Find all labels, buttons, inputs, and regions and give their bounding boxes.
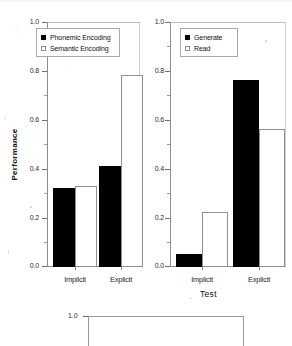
bar-right-implicit-read <box>202 212 228 267</box>
y-tick-major <box>42 22 47 23</box>
y-tick-major <box>42 218 47 219</box>
y-tick-minor <box>167 242 170 243</box>
x-tick <box>75 266 76 270</box>
bar-left-implicit-semantic <box>75 186 97 267</box>
y-tick-major <box>165 169 170 170</box>
y-tick-label: 0.2 <box>12 214 39 221</box>
legend-swatch-filled-icon <box>41 35 46 40</box>
y-tick-major <box>83 316 88 317</box>
x-tick <box>121 266 122 270</box>
y-tick-minor <box>167 144 170 145</box>
y-tick-minor <box>167 46 170 47</box>
legend-item-semantic: Semantic Encoding <box>41 43 114 54</box>
y-tick-major <box>42 266 47 267</box>
y-tick-major <box>165 266 170 267</box>
legend-label: Phonemic Encoding <box>50 34 111 41</box>
y-tick-major <box>165 218 170 219</box>
x-axis-label: Test <box>200 289 217 299</box>
plot-area-bottom-partial <box>88 316 244 346</box>
y-tick-minor <box>44 144 47 145</box>
y-tick-major <box>165 22 170 23</box>
chart-panel-left: 1.0 0.8 0.6 0.4 0.2 0.0 Performance Impl… <box>0 0 146 300</box>
y-tick-minor <box>167 193 170 194</box>
x-tick <box>259 266 260 270</box>
y-tick-major <box>42 71 47 72</box>
legend-swatch-open-icon <box>41 46 46 51</box>
legend-left: Phonemic Encoding Semantic Encoding <box>36 28 120 57</box>
y-axis-label: Performance <box>10 115 19 195</box>
legend-label: Generate <box>194 34 222 41</box>
x-tick-label-explicit: Explicit <box>94 275 148 284</box>
y-tick-label: 0.2 <box>137 214 164 221</box>
legend-item-phonemic: Phonemic Encoding <box>41 32 114 43</box>
legend-swatch-open-icon <box>185 46 190 51</box>
scan-artifact <box>8 250 9 253</box>
y-tick-label: 0.0 <box>137 262 164 269</box>
y-tick-major <box>165 71 170 72</box>
y-tick-label: 1.0 <box>12 18 39 25</box>
y-tick-label: 0.4 <box>137 165 164 172</box>
legend-label: Read <box>194 45 210 52</box>
y-tick-label: 0.6 <box>137 116 164 123</box>
bar-right-explicit-generate <box>233 80 259 267</box>
y-tick-minor <box>44 242 47 243</box>
y-tick-minor <box>167 95 170 96</box>
y-tick-label: 1.0 <box>137 18 164 25</box>
legend-right: Generate Read <box>180 28 238 57</box>
scan-artifact <box>4 118 6 119</box>
y-tick-major <box>42 169 47 170</box>
y-tick-major <box>165 120 170 121</box>
bar-right-implicit-generate <box>176 254 202 267</box>
scan-artifact <box>190 298 192 299</box>
legend-label: Semantic Encoding <box>50 45 109 52</box>
bar-left-implicit-phonemic <box>53 188 75 267</box>
scan-artifact <box>30 206 32 208</box>
y-tick-label: 0.0 <box>12 262 39 269</box>
bar-right-explicit-read <box>259 129 285 267</box>
legend-item-generate: Generate <box>185 32 232 43</box>
bar-left-explicit-phonemic <box>99 166 121 267</box>
legend-item-read: Read <box>185 43 232 54</box>
scan-artifact <box>0 0 292 2</box>
y-tick-minor <box>44 193 47 194</box>
x-tick <box>202 266 203 270</box>
y-tick-major <box>42 120 47 121</box>
legend-swatch-filled-icon <box>185 35 190 40</box>
y-tick-label: 0.8 <box>12 67 39 74</box>
y-tick-minor <box>44 95 47 96</box>
scan-artifact <box>265 40 267 42</box>
chart-panel-right: 1.0 0.8 0.6 0.4 0.2 0.0 Implicit Explici… <box>146 0 292 300</box>
x-tick-label-implicit: Implicit <box>175 275 229 284</box>
y-tick-label: 1.0 <box>68 312 78 319</box>
y-tick-label: 0.8 <box>137 67 164 74</box>
x-tick-label-explicit: Explicit <box>232 275 286 284</box>
chart-panel-bottom-partial: 1.0 <box>0 300 292 341</box>
